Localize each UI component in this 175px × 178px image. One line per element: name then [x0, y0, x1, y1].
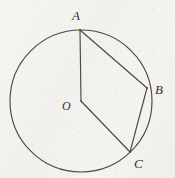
point-b-marker [146, 87, 148, 89]
vertex-label-a: A [72, 9, 80, 22]
segment-oc-radius [81, 101, 130, 152]
center-label-o: O [62, 100, 71, 112]
geometry-figure-canvas: A B C O [0, 0, 175, 178]
vertex-label-c: C [134, 157, 143, 170]
point-a-marker [79, 29, 81, 31]
vertex-label-b: B [155, 83, 163, 96]
geometry-figure-svg [0, 0, 175, 178]
segment-oa-radius [80, 30, 81, 101]
segment-ab-chord [80, 30, 147, 88]
point-c-marker [129, 151, 131, 153]
point-o-marker [80, 100, 82, 102]
